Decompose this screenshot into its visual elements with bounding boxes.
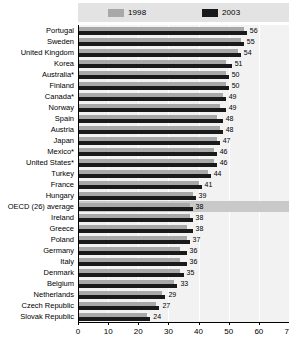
axis-line — [78, 322, 289, 323]
axis-tick-label: 70 — [285, 327, 289, 336]
bar-rows: 5655545150504949484847464644413938383837… — [78, 25, 289, 322]
bar-2003 — [78, 218, 193, 222]
category-label: Greece — [49, 223, 74, 234]
bar-value-label: 50 — [232, 82, 240, 90]
bar-value-label: 35 — [187, 269, 195, 277]
bar-value-label: 44 — [214, 170, 222, 178]
bar-row: 38 — [78, 212, 289, 223]
bar-value-label: 36 — [190, 247, 198, 255]
bar-value-label: 55 — [247, 38, 255, 46]
bar-2003 — [78, 31, 247, 35]
bar-row: 37 — [78, 234, 289, 245]
category-label: Spain — [55, 113, 74, 124]
bar-2003 — [78, 163, 217, 167]
category-label: Korea — [54, 58, 74, 69]
value-axis: 010203040506070 — [78, 322, 289, 349]
category-label: Slovak Republic — [20, 311, 74, 322]
bar-2003 — [78, 251, 187, 255]
category-label: Germany — [43, 245, 74, 256]
bar-2003 — [78, 196, 196, 200]
bar-2003 — [78, 273, 184, 277]
bar-2003 — [78, 53, 241, 57]
bar-row: 46 — [78, 157, 289, 168]
bar-value-label: 47 — [223, 137, 231, 145]
bar-row: 38 — [78, 201, 289, 212]
bar-2003 — [78, 185, 202, 189]
bar-row: 56 — [78, 25, 289, 36]
bar-value-label: 56 — [250, 27, 258, 35]
bar-value-label: 37 — [193, 236, 201, 244]
bar-2003 — [78, 64, 232, 68]
bar-value-label: 46 — [220, 148, 228, 156]
bar-2003 — [78, 130, 223, 134]
axis-tick — [259, 322, 260, 325]
bar-value-label: 39 — [199, 192, 207, 200]
category-label: Poland — [51, 234, 74, 245]
bar-2003 — [78, 152, 217, 156]
bar-row: 39 — [78, 190, 289, 201]
bar-value-label: 38 — [196, 214, 204, 222]
bar-value-label: 49 — [229, 93, 237, 101]
bar-2003 — [78, 317, 150, 321]
bar-row: 47 — [78, 135, 289, 146]
legend-swatch-icon — [108, 9, 124, 17]
bar-2003 — [78, 295, 165, 299]
bar-value-label: 49 — [229, 104, 237, 112]
category-axis: PortugalSwedenUnited KingdomKoreaAustral… — [0, 25, 76, 322]
bar-row: 33 — [78, 278, 289, 289]
value-axis-line — [78, 25, 79, 322]
axis-tick-label: 10 — [104, 327, 113, 336]
bar-row: 50 — [78, 69, 289, 80]
bar-row: 36 — [78, 256, 289, 267]
category-label: Sweden — [47, 36, 74, 47]
bar-value-label: 29 — [168, 291, 176, 299]
category-label: Turkey — [51, 168, 74, 179]
bar-2003 — [78, 75, 229, 79]
bar-row: 27 — [78, 300, 289, 311]
category-label: Italy — [60, 256, 74, 267]
legend-swatch-icon — [202, 9, 218, 17]
bar-row: 49 — [78, 102, 289, 113]
plot-area: 5655545150504949484847464644413938383837… — [78, 25, 289, 322]
bar-2003 — [78, 141, 220, 145]
bar-row: 51 — [78, 58, 289, 69]
axis-tick-label: 30 — [164, 327, 173, 336]
bar-chart: 1998 2003 PortugalSwedenUnited KingdomKo… — [0, 0, 289, 349]
bar-row: 54 — [78, 47, 289, 58]
bar-value-label: 48 — [226, 126, 234, 134]
axis-tick-label: 50 — [224, 327, 233, 336]
category-label: Norway — [49, 102, 74, 113]
axis-tick — [229, 322, 230, 325]
bar-row: 29 — [78, 289, 289, 300]
bar-row: 24 — [78, 311, 289, 322]
bar-row: 38 — [78, 223, 289, 234]
category-label: Ireland — [51, 212, 74, 223]
bar-row: 48 — [78, 124, 289, 135]
bar-2003 — [78, 306, 159, 310]
bar-2003 — [78, 262, 187, 266]
bar-row: 55 — [78, 36, 289, 47]
category-label: United States* — [26, 157, 74, 168]
bar-2003 — [78, 42, 244, 46]
bar-2003 — [78, 86, 229, 90]
category-label: Denmark — [44, 267, 74, 278]
axis-tick — [168, 322, 169, 325]
legend-item-1998: 1998 — [108, 7, 146, 18]
category-label: Portugal — [46, 25, 74, 36]
category-label: Netherlands — [34, 289, 74, 300]
bar-2003 — [78, 229, 193, 233]
bar-value-label: 46 — [220, 159, 228, 167]
bar-value-label: 48 — [226, 115, 234, 123]
category-label: Japan — [54, 135, 74, 146]
category-label: Czech Republic — [21, 300, 74, 311]
bar-value-label: 51 — [235, 60, 243, 68]
axis-tick — [78, 322, 79, 325]
bar-row: 41 — [78, 179, 289, 190]
category-label: OECD (26) average — [8, 201, 74, 212]
legend-item-2003: 2003 — [202, 7, 240, 18]
axis-tick — [199, 322, 200, 325]
bar-value-label: 38 — [196, 225, 204, 233]
bar-2003 — [78, 284, 177, 288]
chart-legend: 1998 2003 — [78, 3, 289, 22]
bar-value-label: 36 — [190, 258, 198, 266]
